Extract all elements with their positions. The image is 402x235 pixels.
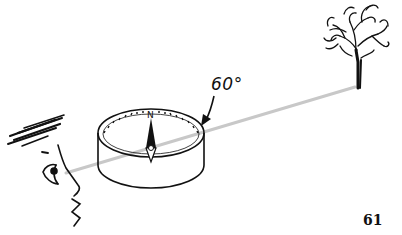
compass-north-label: N [147,110,154,120]
compass-sighting-illustration: N [0,0,402,235]
page-number: 61 [363,212,382,228]
angle-label: 60° [211,74,243,94]
angle-arrow [201,96,214,126]
sight-line [66,87,355,173]
tree [324,5,389,88]
compass-needle [146,118,156,162]
